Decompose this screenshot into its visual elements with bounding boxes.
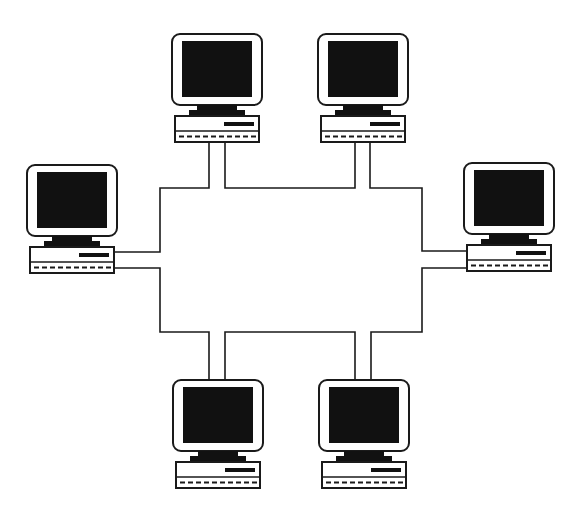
computer-right-icon (464, 163, 554, 271)
computer-bottom-right-icon (319, 380, 409, 488)
computer-top-left-icon (172, 34, 262, 142)
computer-bottom-left-icon (173, 380, 263, 488)
network-cable (115, 141, 467, 380)
computer-left-icon (27, 165, 117, 273)
computer-top-right-icon (318, 34, 408, 142)
network-diagram (0, 0, 583, 513)
